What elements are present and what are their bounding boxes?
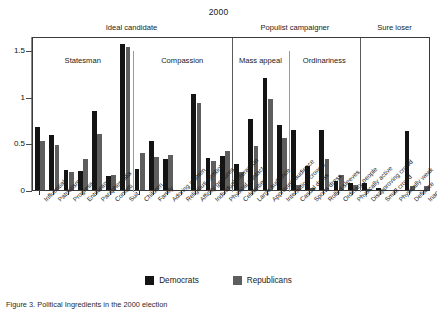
x-axis-tick <box>139 191 140 195</box>
bar-democrats <box>35 127 40 190</box>
x-axis-tick-label: Individual interaction <box>213 197 219 203</box>
x-axis-tick-label: Influentials <box>42 197 48 203</box>
bar-democrats <box>120 44 125 190</box>
bar-republicans <box>140 153 145 190</box>
bar-democrats <box>135 169 140 190</box>
x-axis-tick <box>409 191 410 195</box>
panel-label: Ordinariness <box>289 56 360 65</box>
legend-label: Republicans <box>247 276 292 285</box>
x-axis-tick-label: Ordinary people <box>341 197 347 203</box>
x-axis-tick-label: Approving audience <box>270 197 276 203</box>
legend-label: Democrats <box>159 276 199 285</box>
x-axis-tick-label: Defiance <box>412 197 418 203</box>
x-axis-tick-label: Family <box>156 197 162 203</box>
x-axis-tick-label: Patriotism <box>57 197 63 203</box>
x-axis: InfluentialsPatriotismProgressEntourageP… <box>32 191 430 261</box>
y-axis-tick-label: 0.5 <box>0 139 25 148</box>
panel-separator <box>133 51 134 192</box>
bar-republicans <box>268 99 273 190</box>
bar-democrats <box>149 141 154 190</box>
bar-democrats <box>49 135 54 190</box>
chart-title: 2000 <box>0 7 437 17</box>
supergroup-header-band: Ideal candidatePopulist campaignerSure l… <box>0 23 437 35</box>
bar-republicans <box>40 141 45 190</box>
x-axis-tick <box>167 191 168 195</box>
x-axis-tick <box>96 191 97 195</box>
x-axis-tick <box>68 191 69 195</box>
x-axis-tick-label: Sports dress <box>312 197 318 203</box>
x-axis-tick-label: Casual dress <box>298 197 304 203</box>
panel-label: Compassion <box>133 56 233 65</box>
x-axis-tick-label: Entourage <box>85 197 91 203</box>
x-axis-tick <box>53 191 54 195</box>
x-axis-tick-label: Adoring women <box>170 197 176 203</box>
x-axis-tick <box>210 191 211 195</box>
bar-republicans <box>126 47 131 190</box>
x-axis-tick <box>181 191 182 195</box>
x-axis-tick <box>338 191 339 195</box>
x-axis-tick-label: Affinity gestures <box>199 197 205 203</box>
x-axis-tick <box>252 191 253 195</box>
x-axis-tick-label: Disapproving crowd <box>369 197 375 203</box>
supergroup-label: Sure loser <box>359 23 430 32</box>
x-axis-tick <box>238 191 239 195</box>
x-axis-tick <box>124 191 125 195</box>
x-axis-tick-label: Interaction crowds <box>284 197 290 203</box>
x-axis-tick-label: Confetti <box>113 197 119 203</box>
panel-label: Mass appeal <box>232 56 289 65</box>
x-axis-tick <box>423 191 424 195</box>
figure-caption: Figure 3. Political Ingredients in the 2… <box>6 300 426 311</box>
panel-label: Statesman <box>33 56 133 65</box>
x-axis-tick-label: Progress <box>71 197 77 203</box>
x-axis-tick <box>366 191 367 195</box>
x-axis-tick <box>110 191 111 195</box>
legend-swatch-icon <box>233 276 242 285</box>
chart-legend: DemocratsRepublicans <box>0 276 437 285</box>
x-axis-tick-label: Suit <box>128 197 134 203</box>
x-axis-tick <box>82 191 83 195</box>
x-axis-tick <box>281 191 282 195</box>
x-axis-tick-label: Small crowd <box>384 197 390 203</box>
x-axis-tick-label: Physically active <box>355 197 361 203</box>
x-axis-tick-label: Rolled sleeves <box>327 197 333 203</box>
x-axis-tick-label: Physical contact <box>227 197 233 203</box>
x-axis-tick <box>323 191 324 195</box>
supergroup-label: Ideal candidate <box>32 23 231 32</box>
bar-chart-figure: 2000 Ideal candidatePopulist campaignerS… <box>0 0 437 312</box>
supergroup-separator <box>360 38 361 190</box>
x-axis-tick <box>295 191 296 195</box>
x-axis-tick <box>394 191 395 195</box>
x-axis-tick <box>224 191 225 195</box>
y-axis-tick-label: 0 <box>0 186 25 195</box>
supergroup-label: Populist campaigner <box>231 23 359 32</box>
x-axis-tick <box>380 191 381 195</box>
x-axis-tick <box>267 191 268 195</box>
x-axis-tick-label: Inappropriate <box>426 197 432 203</box>
y-axis-tick-label: 1.5 <box>0 46 25 55</box>
bar-democrats <box>92 111 97 190</box>
bar-democrats <box>263 78 268 190</box>
x-axis-tick-label: Children <box>142 197 148 203</box>
x-axis-tick-label: Celebrities <box>241 197 247 203</box>
y-axis-tick-label: 1 <box>0 93 25 102</box>
x-axis-tick-label: Physically weak <box>398 197 404 203</box>
legend-item: Democrats <box>145 276 199 285</box>
x-axis-tick <box>39 191 40 195</box>
x-axis-tick <box>195 191 196 195</box>
legend-item: Republicans <box>233 276 292 285</box>
x-axis-tick-label: Large audience <box>256 197 262 203</box>
x-axis-tick-label: Religious symbols <box>185 197 191 203</box>
x-axis-tick-label: Paraphernalia <box>99 197 105 203</box>
x-axis-tick <box>309 191 310 195</box>
x-axis-tick <box>153 191 154 195</box>
x-axis-tick <box>352 191 353 195</box>
legend-swatch-icon <box>145 276 154 285</box>
